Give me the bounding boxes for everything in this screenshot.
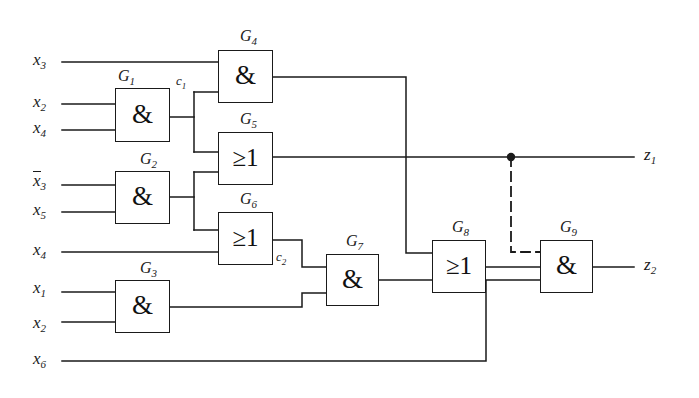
input-sub: 2 [41, 322, 47, 334]
gate-label-text: G [240, 110, 252, 127]
input-base: x [33, 118, 41, 137]
gate-label-G4: G4 [240, 27, 257, 47]
gate-label-G3: G3 [140, 259, 157, 279]
gate-label-G6: G6 [240, 190, 257, 210]
gate-label-text: G [346, 232, 358, 249]
input-label-x3-inverted: x3 [33, 171, 46, 192]
gate-label-sub: 5 [252, 118, 258, 130]
wire-label-c2: c2 [276, 249, 286, 267]
gate-symbol-and: & [342, 266, 363, 295]
gate-G9[interactable]: & [540, 240, 593, 293]
gate-G2[interactable]: & [115, 171, 170, 224]
input-sub: 5 [41, 209, 47, 221]
wire-label-c1: c1 [176, 73, 186, 91]
output-base: z [644, 255, 651, 274]
gate-label-sub: 9 [572, 226, 578, 238]
input-base: x [33, 240, 41, 259]
input-label-x2-b: x2 [33, 313, 46, 334]
input-base: x [33, 278, 41, 297]
output-label-z2: z2 [644, 255, 656, 276]
input-label-x2: x2 [33, 92, 46, 113]
input-sub: 6 [41, 358, 47, 370]
input-base: x [33, 50, 41, 69]
input-base: x [33, 313, 41, 332]
overbar-x: x [33, 171, 41, 190]
input-sub: 3 [41, 59, 47, 71]
output-sub: 1 [651, 154, 657, 166]
wire-z1-feedback-dashed [511, 157, 540, 252]
gate-G3[interactable]: & [115, 280, 170, 333]
gate-label-sub: 7 [358, 240, 364, 252]
wire-G3-out-to-G7 [170, 293, 326, 307]
gate-G7[interactable]: & [326, 254, 379, 306]
junction-dot-z1 [507, 153, 515, 161]
gate-symbol-and: & [556, 252, 577, 281]
wire-label-sub: 1 [182, 81, 187, 91]
input-sub: 4 [41, 127, 47, 139]
input-label-x4-b: x4 [33, 240, 46, 261]
gate-label-G1: G1 [118, 67, 135, 87]
gate-symbol-or: ≥1 [232, 145, 258, 172]
input-label-x4: x4 [33, 118, 46, 139]
gate-label-sub: 4 [252, 35, 258, 47]
gate-symbol-and: & [132, 183, 153, 212]
gate-G5[interactable]: ≥1 [218, 132, 273, 185]
gate-label-G7: G7 [346, 232, 363, 252]
output-base: z [644, 145, 651, 164]
gate-label-text: G [560, 218, 572, 235]
gate-label-G8: G8 [452, 218, 469, 238]
gate-label-G9: G9 [560, 218, 577, 238]
gate-symbol-or: ≥1 [232, 225, 258, 252]
gate-label-sub: 8 [464, 226, 470, 238]
input-base: x [33, 349, 41, 368]
input-sub: 2 [41, 101, 47, 113]
gate-label-text: G [140, 259, 152, 276]
gate-label-G2: G2 [140, 150, 157, 170]
gate-symbol-or: ≥1 [446, 253, 472, 280]
output-label-z1: z1 [644, 145, 656, 166]
gate-label-text: G [240, 190, 252, 207]
gate-G8[interactable]: ≥1 [432, 240, 486, 293]
gate-G6[interactable]: ≥1 [218, 212, 273, 265]
gate-label-sub: 6 [252, 198, 258, 210]
gate-symbol-and: & [235, 62, 256, 91]
gate-label-sub: 1 [130, 75, 136, 87]
gate-label-sub: 2 [152, 158, 158, 170]
gate-label-G5: G5 [240, 110, 257, 130]
gate-symbol-and: & [132, 101, 153, 130]
gate-label-sub: 3 [152, 267, 158, 279]
input-base: x [33, 92, 41, 111]
gate-label-text: G [140, 150, 152, 167]
gate-label-text: G [452, 218, 464, 235]
wire-layer [0, 0, 699, 398]
input-label-x1: x1 [33, 278, 46, 299]
wire-label-sub: 2 [282, 257, 287, 267]
gate-symbol-and: & [132, 292, 153, 321]
wire-G4-out-to-G8 [273, 77, 432, 253]
input-label-x6: x6 [33, 349, 46, 370]
input-sub: 3 [41, 180, 47, 192]
logic-circuit-diagram: & & & & ≥1 ≥1 & ≥1 & G1 G2 G3 G4 G5 G6 G… [0, 0, 699, 398]
gate-label-text: G [240, 27, 252, 44]
gate-G1[interactable]: & [115, 88, 170, 142]
input-base: x [33, 200, 41, 219]
input-label-x3: x3 [33, 50, 46, 71]
output-sub: 2 [651, 264, 657, 276]
gate-label-text: G [118, 67, 130, 84]
input-label-x5: x5 [33, 200, 46, 221]
gate-G4[interactable]: & [218, 50, 273, 103]
input-sub: 4 [41, 249, 47, 261]
input-sub: 1 [41, 287, 47, 299]
